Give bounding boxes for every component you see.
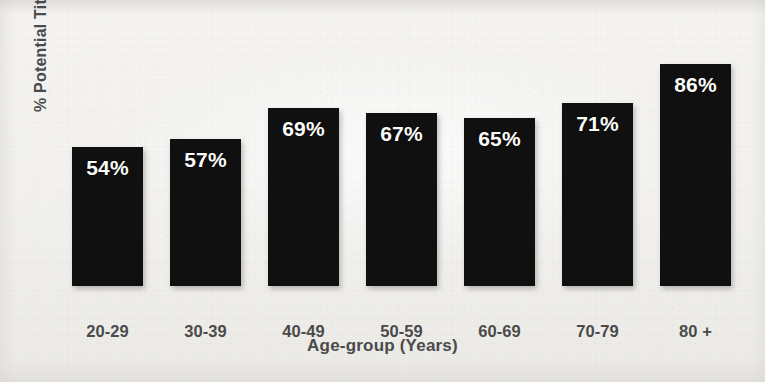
bar-group-1: 54% <box>72 28 143 286</box>
bar-group-6: 71% <box>562 28 633 286</box>
bar-chart-figure: % Potential Tithe 54% 57% 69% 67% 65% <box>0 0 765 382</box>
bar-value-label: 69% <box>268 117 339 141</box>
bar-value-label: 65% <box>464 127 535 151</box>
x-axis-title: Age-group (Years) <box>0 336 765 356</box>
bar-value-label: 67% <box>366 122 437 146</box>
bar-value-label: 71% <box>562 112 633 136</box>
y-axis-title-container: % Potential Tithe <box>36 60 62 290</box>
bar-20-29: 54% <box>72 147 143 286</box>
bar-40-49: 69% <box>268 108 339 286</box>
y-axis-title: % Potential Tithe <box>32 0 50 112</box>
bar-group-5: 65% <box>464 28 535 286</box>
bar-70-79: 71% <box>562 103 633 286</box>
bar-value-label: 57% <box>170 148 241 172</box>
bar-60-69: 65% <box>464 118 535 286</box>
bar-group-7: 86% <box>660 28 731 286</box>
bar-group-3: 69% <box>268 28 339 286</box>
bar-value-label: 86% <box>660 73 731 97</box>
bar-50-59: 67% <box>366 113 437 286</box>
bar-30-39: 57% <box>170 139 241 286</box>
bar-group-2: 57% <box>170 28 241 286</box>
plot-area: 54% 57% 69% 67% 65% 71% <box>62 28 750 286</box>
bar-group-4: 67% <box>366 28 437 286</box>
bar-value-label: 54% <box>72 156 143 180</box>
bar-80-plus: 86% <box>660 64 731 286</box>
